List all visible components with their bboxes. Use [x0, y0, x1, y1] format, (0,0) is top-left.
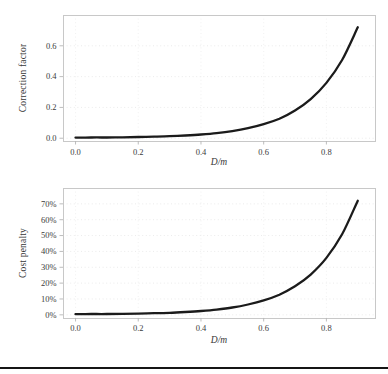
x-tick-label: 0.4: [196, 323, 207, 333]
correction-factor-curve: [76, 27, 358, 137]
cost-penalty-plot: 0.00.20.40.60.80%10%20%30%40%50%60%70%: [0, 178, 388, 348]
y-tick-label: 0.0: [46, 133, 57, 143]
x-tick-label: 0.6: [258, 323, 269, 333]
x-tick-label: 0.8: [321, 323, 332, 333]
x-tick-label: 0.2: [133, 323, 144, 333]
x-tick-label: 0.2: [133, 147, 144, 157]
y-tick-label: 70%: [41, 199, 57, 209]
y-axis-label-correction-factor: Correction factor: [18, 44, 28, 113]
correction-factor-plot: 0.00.20.40.60.80.00.20.40.6: [0, 0, 388, 176]
y-tick-label: 10%: [41, 294, 57, 304]
y-tick-label: 0.6: [46, 41, 57, 51]
y-tick-label: 0.4: [46, 71, 57, 81]
plot-box-spine: [63, 188, 375, 318]
y-tick-label: 40%: [41, 246, 57, 256]
y-axis-label-cost-penalty: Cost penalty: [18, 228, 28, 278]
x-tick-label: 0.0: [70, 323, 81, 333]
y-tick-label: 20%: [41, 278, 57, 288]
plot-box-spine: [63, 15, 375, 141]
y-tick-label: 30%: [41, 262, 57, 272]
x-tick-label: 0.0: [70, 147, 81, 157]
page-footer-rule: [0, 367, 388, 369]
x-axis-label-dm-top: D/m: [63, 157, 375, 167]
x-tick-label: 0.8: [321, 147, 332, 157]
figure-page: 0.00.20.40.60.80.00.20.40.6 Correction f…: [0, 0, 388, 374]
cost-penalty-curve: [76, 201, 358, 315]
x-tick-label: 0.6: [258, 147, 269, 157]
x-tick-label: 0.4: [196, 147, 207, 157]
x-axis-label-dm-bottom: D/m: [63, 335, 375, 345]
y-tick-label: 60%: [41, 215, 57, 225]
y-tick-label: 0%: [45, 310, 56, 320]
y-tick-label: 0.2: [46, 102, 57, 112]
y-tick-label: 50%: [41, 230, 57, 240]
